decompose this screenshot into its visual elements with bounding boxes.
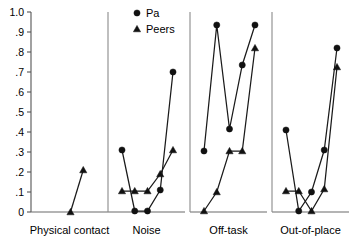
series-line-peers	[71, 170, 84, 212]
y-axis-tick-label: .3	[15, 146, 24, 158]
y-axis-tick-label: .9	[15, 26, 24, 38]
legend-label-pa: Pa	[146, 7, 160, 19]
legend-marker-pa	[134, 10, 140, 16]
panels-group: Physical contactNoiseOff-taskOut-of-plac…	[30, 12, 349, 236]
y-axis-tick-label: .5	[15, 106, 24, 118]
panel-out-of-place: Out-of-place	[272, 12, 349, 236]
data-point-peers	[251, 44, 258, 50]
multi-panel-line-chart: 0.1.2.3.4.5.6.7.8.91.0 Physical contactN…	[0, 0, 358, 241]
chart-legend: PaPeers	[133, 7, 175, 35]
panel-label: Noise	[132, 224, 160, 236]
y-axis-tick-label: .2	[15, 166, 24, 178]
data-point-pa	[296, 208, 302, 214]
data-point-pa	[201, 148, 207, 154]
data-point-pa	[283, 127, 289, 133]
legend-marker-peers	[133, 25, 140, 31]
data-point-pa	[334, 45, 340, 51]
data-point-pa	[239, 62, 245, 68]
legend-label-peers: Peers	[146, 23, 175, 35]
data-point-pa	[144, 208, 150, 214]
panel-noise: Noise	[108, 12, 185, 236]
data-point-peers	[321, 185, 328, 191]
data-point-pa	[308, 189, 314, 195]
data-point-pa	[119, 147, 125, 153]
y-axis-tick-label: .4	[15, 126, 24, 138]
y-axis-tick-label: .8	[15, 46, 24, 58]
data-point-pa	[132, 208, 138, 214]
data-point-pa	[226, 126, 232, 132]
y-axis-tick-label: .7	[15, 66, 24, 78]
y-axis-tick-label: 1.0	[9, 6, 24, 18]
panel-physical-contact: Physical contact	[30, 166, 109, 236]
data-point-peers	[169, 146, 176, 152]
data-point-pa	[321, 147, 327, 153]
data-point-pa	[252, 22, 258, 28]
y-axis-tick-label: .1	[15, 186, 24, 198]
panel-label: Off-task	[209, 224, 248, 236]
y-axis-tick-label: .6	[15, 86, 24, 98]
data-point-peers	[308, 207, 315, 213]
chart-container: 0.1.2.3.4.5.6.7.8.91.0 Physical contactN…	[0, 0, 358, 241]
data-point-pa	[157, 187, 163, 193]
y-axis-tick-label: 0	[18, 206, 24, 218]
series-line-pa	[286, 48, 337, 211]
y-axis: 0.1.2.3.4.5.6.7.8.91.0	[9, 6, 31, 218]
data-point-peers	[80, 166, 87, 172]
panel-off-task: Off-task	[190, 12, 267, 236]
panel-label: Out-of-place	[280, 224, 341, 236]
data-point-peers	[213, 188, 220, 194]
data-point-pa	[170, 69, 176, 75]
panel-label: Physical contact	[30, 224, 109, 236]
data-point-pa	[214, 22, 220, 28]
